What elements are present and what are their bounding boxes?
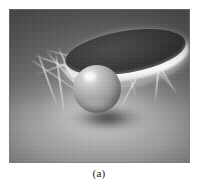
rendered-scene-image xyxy=(9,9,190,163)
figure-caption: (a) xyxy=(0,167,198,179)
figure-panel: (a) xyxy=(0,0,198,186)
sphere-bounce-light xyxy=(79,99,115,111)
sphere-specular-highlight xyxy=(84,72,97,82)
